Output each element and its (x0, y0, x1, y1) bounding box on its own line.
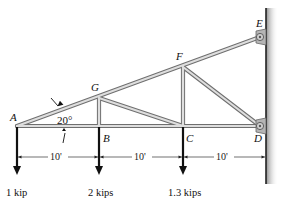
load-arrows (13, 127, 187, 175)
node-label-d: D (253, 132, 262, 144)
truss-diagram: 20° 10' 10' 10' A B C D E F G 1 kip 2 ki… (0, 0, 283, 209)
angle-label: 20° (57, 114, 72, 126)
dimension-cd: 10' (216, 151, 228, 162)
truss-members (17, 37, 260, 126)
wall-support (266, 8, 278, 184)
node-label-c: C (186, 132, 194, 144)
load-label-b: 2 kips (88, 187, 113, 198)
dimension-bc: 10' (134, 151, 146, 162)
load-label-a: 1 kip (6, 187, 27, 198)
node-label-e: E (255, 17, 263, 29)
node-label-f: F (175, 50, 183, 62)
node-label-b: B (103, 132, 110, 144)
load-label-c: 1.3 kips (168, 187, 201, 198)
pin-support-e (256, 29, 266, 45)
dimension-ab: 10' (50, 151, 62, 162)
node-label-g: G (91, 81, 99, 93)
node-label-a: A (9, 111, 17, 123)
